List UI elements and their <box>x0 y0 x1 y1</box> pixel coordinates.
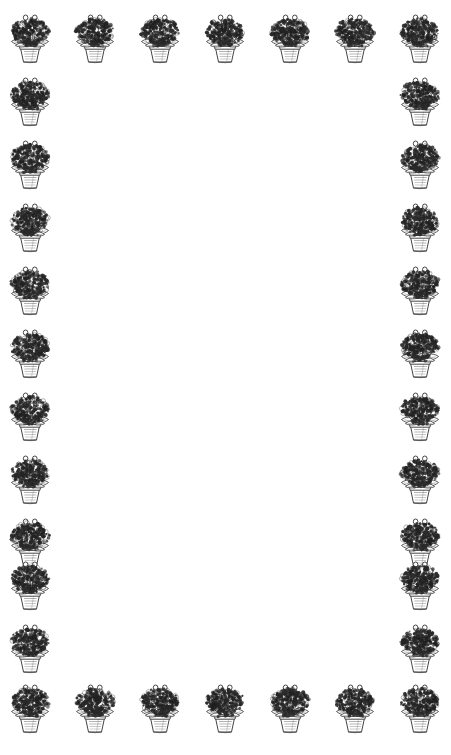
border-motif-bottom-4 <box>264 678 316 734</box>
border-motif-top-1 <box>69 8 121 64</box>
border-motif-right-4 <box>394 260 446 316</box>
border-motif-top-0 <box>4 8 56 64</box>
border-motif-top-3 <box>199 8 251 64</box>
stationery-page <box>0 0 451 755</box>
border-motif-bottom-5 <box>329 678 381 734</box>
border-motif-left-7 <box>4 449 56 505</box>
border-motif-right-3 <box>394 197 446 253</box>
border-motif-right-1 <box>394 71 446 127</box>
border-motif-top-2 <box>134 8 186 64</box>
border-motif-top-6 <box>394 8 446 64</box>
border-motif-bottom-3 <box>199 678 251 734</box>
border-motif-top-4 <box>264 8 316 64</box>
border-motif-left-9 <box>4 555 56 611</box>
border-motif-left-4 <box>4 260 56 316</box>
border-motif-right-6 <box>394 386 446 442</box>
border-motif-right-9 <box>394 555 446 611</box>
border-motif-left-2 <box>4 134 56 190</box>
border-motif-right-7 <box>394 449 446 505</box>
writing-area[interactable] <box>62 70 388 672</box>
border-motif-bottom-1 <box>69 678 121 734</box>
border-motif-right-5 <box>394 323 446 379</box>
border-motif-right-2 <box>394 134 446 190</box>
border-motif-left-5 <box>4 323 56 379</box>
border-motif-bottom-6 <box>394 678 446 734</box>
border-motif-right-10 <box>394 618 446 674</box>
border-motif-left-1 <box>4 71 56 127</box>
border-motif-bottom-2 <box>134 678 186 734</box>
border-motif-bottom-0 <box>4 678 56 734</box>
border-motif-top-5 <box>329 8 381 64</box>
border-motif-left-3 <box>4 197 56 253</box>
border-motif-left-10 <box>4 618 56 674</box>
border-motif-left-6 <box>4 386 56 442</box>
